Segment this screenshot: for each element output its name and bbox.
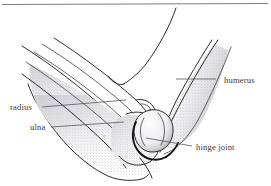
label-humerus: humerus [224, 75, 255, 85]
elbow-joint-illustration: humerus radius ulna hinge joint [0, 0, 271, 186]
elbow-joint-figure: humerus radius ulna hinge joint [0, 0, 271, 186]
label-ulna: ulna [30, 122, 45, 132]
top-divider-rule [2, 4, 268, 5]
label-radius: radius [10, 102, 32, 112]
label-hinge-joint: hinge joint [196, 142, 235, 152]
